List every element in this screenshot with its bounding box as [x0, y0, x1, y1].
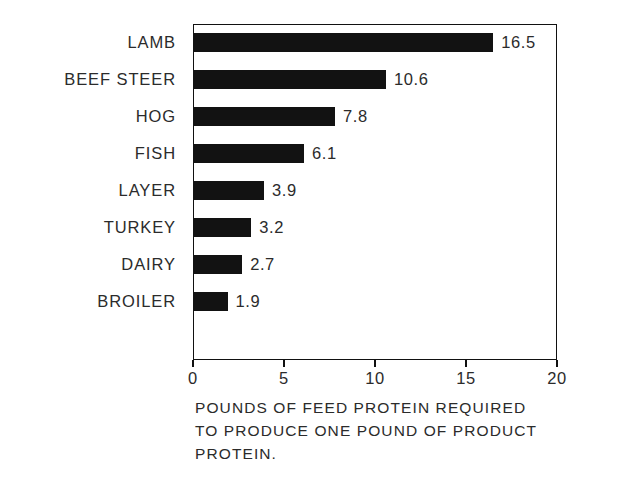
x-tick-label: 20	[547, 369, 567, 388]
caption-line-1: POUNDS OF FEED PROTEIN REQUIRED	[195, 396, 615, 419]
bar-fish	[193, 144, 304, 163]
caption-line-3: PROTEIN.	[195, 442, 615, 465]
x-tick-mark	[556, 360, 558, 367]
x-tick-mark	[374, 360, 376, 367]
category-axis: LAMB BEEF STEER HOG FISH LAYER TURKEY DA…	[0, 24, 185, 320]
bar-hog	[193, 107, 335, 126]
bar-value-label: 2.7	[250, 254, 275, 274]
x-tick-mark	[283, 360, 285, 367]
bar-row: 3.9	[193, 172, 557, 209]
x-tick-label: 10	[365, 369, 385, 388]
bar-value-label: 16.5	[501, 32, 536, 52]
bar-layer	[193, 181, 264, 200]
bar-row: 16.5	[193, 24, 557, 61]
category-label: LAYER	[119, 181, 176, 200]
x-tick-label: 0	[188, 369, 198, 388]
category-tick-turkey: TURKEY	[0, 209, 185, 246]
category-label: DAIRY	[121, 255, 176, 274]
bar-row: 2.7	[193, 246, 557, 283]
bar-row: 7.8	[193, 98, 557, 135]
category-label: BEEF STEER	[64, 70, 176, 89]
bar-broiler	[193, 292, 228, 311]
bars-layer: 16.5 10.6 7.8 6.1 3.9 3.2 2.7 1.9	[193, 24, 557, 360]
x-tick-mark	[192, 360, 194, 367]
category-label: LAMB	[127, 33, 176, 52]
category-label: HOG	[136, 107, 176, 126]
bar-value-label: 7.8	[343, 106, 368, 126]
category-label: BROILER	[97, 292, 176, 311]
bar-value-label: 6.1	[312, 143, 337, 163]
x-tick-label: 15	[456, 369, 476, 388]
bar-value-label: 3.2	[259, 217, 284, 237]
category-tick-hog: HOG	[0, 98, 185, 135]
category-tick-broiler: BROILER	[0, 283, 185, 320]
category-tick-fish: FISH	[0, 135, 185, 172]
x-tick-mark	[465, 360, 467, 367]
bar-beef-steer	[193, 70, 386, 89]
x-tick-label: 5	[279, 369, 289, 388]
bar-turkey	[193, 218, 251, 237]
bar-row: 3.2	[193, 209, 557, 246]
chart-caption: POUNDS OF FEED PROTEIN REQUIRED TO PRODU…	[195, 396, 615, 465]
bar-value-label: 3.9	[272, 180, 297, 200]
bar-dairy	[193, 255, 242, 274]
x-axis: 05101520	[193, 360, 557, 390]
category-label: FISH	[135, 144, 176, 163]
category-label: TURKEY	[104, 218, 176, 237]
category-tick-layer: LAYER	[0, 172, 185, 209]
bar-row: 6.1	[193, 135, 557, 172]
bar-value-label: 1.9	[236, 291, 261, 311]
bar-row: 1.9	[193, 283, 557, 320]
category-tick-dairy: DAIRY	[0, 246, 185, 283]
caption-line-2: TO PRODUCE ONE POUND OF PRODUCT	[195, 419, 615, 442]
bar-value-label: 10.6	[394, 69, 429, 89]
category-tick-lamb: LAMB	[0, 24, 185, 61]
bar-row: 10.6	[193, 61, 557, 98]
feed-protein-bar-chart: LAMB BEEF STEER HOG FISH LAYER TURKEY DA…	[0, 0, 620, 485]
bar-lamb	[193, 33, 493, 52]
category-tick-beef-steer: BEEF STEER	[0, 61, 185, 98]
